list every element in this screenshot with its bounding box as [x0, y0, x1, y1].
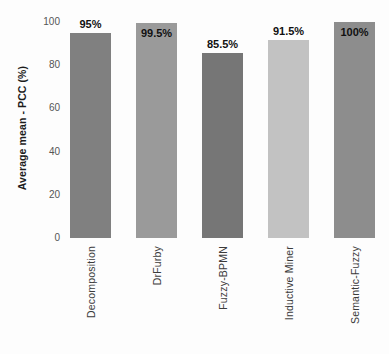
bar[interactable]: [136, 23, 177, 238]
y-axis-tick: 20: [30, 190, 60, 200]
bar-group: 85.5%Fuzzy-BPMN: [202, 0, 243, 354]
x-axis-category-label: DrFurby: [136, 246, 177, 354]
y-axis-tick: 60: [30, 103, 60, 113]
bar-group: 91.5%Inductive Miner: [268, 0, 309, 354]
bar-value-label: 85.5%: [193, 38, 252, 51]
bar-value-label: 99.5%: [127, 27, 186, 40]
bar-value-label: 91.5%: [259, 25, 318, 38]
bar-value-label: 100%: [325, 26, 384, 39]
bar-chart: Average mean - PCC (%) 020406080100 95%D…: [0, 0, 389, 354]
bar-group: 95%Decomposition: [70, 0, 111, 354]
bar[interactable]: [268, 40, 309, 238]
bar-group: 99.5%DrFurby: [136, 0, 177, 354]
plot-area: 95%Decomposition99.5%DrFurby85.5%Fuzzy-B…: [62, 0, 389, 354]
y-axis-title: Average mean - PCC (%): [13, 8, 31, 248]
y-axis-tick: 80: [30, 60, 60, 70]
bar[interactable]: [70, 33, 111, 238]
y-axis-tick-labels: 020406080100: [30, 0, 60, 354]
bar[interactable]: [334, 22, 375, 238]
x-axis-category-label: Decomposition: [70, 246, 111, 354]
y-axis-tick: 100: [30, 17, 60, 27]
y-axis-tick: 0: [30, 233, 60, 243]
y-axis-tick: 40: [30, 147, 60, 157]
bar[interactable]: [202, 53, 243, 238]
x-axis-category-label: Inductive Miner: [268, 246, 309, 354]
x-axis-category-label: Fuzzy-BPMN: [202, 246, 243, 354]
bar-value-label: 95%: [61, 18, 120, 31]
x-axis-category-label: Semantic-Fuzzy: [334, 246, 375, 354]
bar-group: 100%Semantic-Fuzzy: [334, 0, 375, 354]
